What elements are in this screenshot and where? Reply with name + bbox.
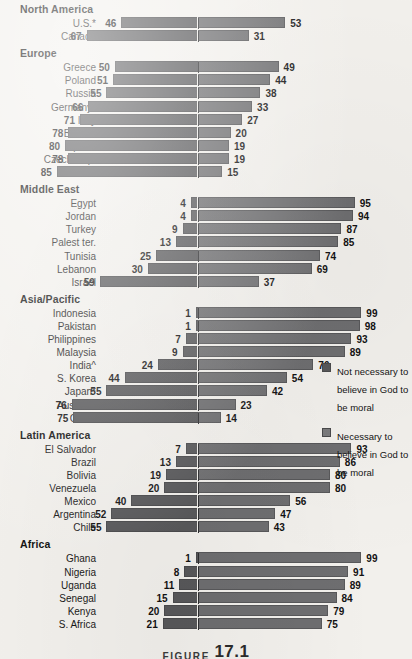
bar-segment-not-necessary bbox=[65, 140, 197, 151]
left-value: 78 bbox=[42, 127, 63, 140]
right-value: 19 bbox=[234, 153, 245, 166]
center-axis-line bbox=[198, 264, 199, 275]
bar-row: Canada6731 bbox=[0, 30, 300, 43]
bar-row: Israel5937 bbox=[0, 276, 300, 289]
bar-segment-not-necessary bbox=[106, 521, 197, 532]
bar-segment-not-necessary bbox=[72, 399, 198, 410]
country-label: Tunisia bbox=[0, 250, 96, 263]
bar-row: Palest ter.1385 bbox=[0, 236, 300, 249]
left-value: 55 bbox=[80, 521, 101, 534]
bar-row: Greece5049 bbox=[0, 61, 300, 74]
bar-row: El Salvador793 bbox=[0, 443, 300, 456]
center-axis-line bbox=[198, 457, 199, 468]
left-value: 59 bbox=[74, 276, 95, 289]
center-axis-line bbox=[198, 237, 199, 248]
bar-row: India^2470 bbox=[0, 359, 300, 372]
bar-row: Uganda1189 bbox=[0, 579, 300, 592]
bar-segment-necessary bbox=[198, 140, 229, 151]
bar-row: Malaysia989 bbox=[0, 346, 300, 359]
right-value: 23 bbox=[241, 399, 252, 412]
center-axis-line bbox=[198, 141, 199, 152]
bar-row: Indonesia199 bbox=[0, 307, 300, 320]
bar-row: Poland5144 bbox=[0, 74, 300, 87]
center-axis-line bbox=[198, 347, 199, 358]
group-header-africa: Africa bbox=[20, 538, 50, 550]
center-axis-line bbox=[198, 360, 199, 371]
country-label: Greece bbox=[0, 61, 96, 74]
left-value: 24 bbox=[132, 359, 153, 372]
bar-segment-necessary bbox=[198, 74, 271, 85]
bar-segment-necessary bbox=[198, 17, 286, 28]
bar-row: Egypt495 bbox=[0, 197, 300, 210]
right-value: 99 bbox=[366, 307, 377, 320]
bar-segment-necessary bbox=[198, 385, 268, 396]
right-value: 49 bbox=[284, 61, 295, 74]
diverging-bar-chart: North AmericaU.S.*4653Canada6731EuropeGr… bbox=[0, 0, 412, 636]
center-axis-line bbox=[198, 31, 199, 42]
left-value: 50 bbox=[89, 61, 110, 74]
left-value: 40 bbox=[105, 495, 126, 508]
country-label: Bolivia bbox=[0, 469, 96, 482]
bar-row: Britain*7820 bbox=[0, 127, 300, 140]
right-value: 53 bbox=[290, 17, 301, 30]
center-axis-line bbox=[198, 522, 199, 533]
bar-row: Pakistan198 bbox=[0, 320, 300, 333]
right-value: 94 bbox=[358, 210, 369, 223]
bar-segment-not-necessary bbox=[57, 166, 198, 177]
left-value: 7 bbox=[160, 333, 181, 346]
center-axis-line bbox=[198, 18, 199, 29]
right-value: 69 bbox=[317, 263, 328, 276]
bar-row: Ghana199 bbox=[0, 552, 300, 565]
left-value: 7 bbox=[160, 443, 181, 456]
left-value: 51 bbox=[87, 74, 108, 87]
country-label: El Salvador bbox=[0, 443, 96, 456]
chart-legend: Not necessary to believe in God to be mo… bbox=[322, 361, 412, 491]
right-value: 79 bbox=[333, 605, 344, 618]
center-axis-line bbox=[198, 580, 199, 591]
left-value: 80 bbox=[39, 140, 60, 153]
bar-row: Australia7623 bbox=[0, 399, 300, 412]
bar-row: Bolivia1980 bbox=[0, 469, 300, 482]
bar-segment-necessary bbox=[198, 166, 223, 177]
left-value: 85 bbox=[31, 166, 52, 179]
bar-segment-not-necessary bbox=[158, 359, 198, 370]
bar-row: Chile5543 bbox=[0, 521, 300, 534]
center-axis-line bbox=[198, 400, 199, 411]
country-label: Brazil bbox=[0, 456, 96, 469]
left-value: 1 bbox=[170, 320, 191, 333]
bar-segment-not-necessary bbox=[106, 385, 197, 396]
country-label: Nigeria bbox=[0, 566, 96, 579]
right-value: 54 bbox=[292, 372, 303, 385]
bar-row: Nigeria891 bbox=[0, 566, 300, 579]
left-value: 19 bbox=[140, 469, 161, 482]
right-value: 20 bbox=[236, 127, 247, 140]
bar-row: Russia5538 bbox=[0, 87, 300, 100]
bar-row: S. Korea4454 bbox=[0, 372, 300, 385]
bar-row: France*8515 bbox=[0, 166, 300, 179]
bar-segment-necessary bbox=[198, 333, 352, 344]
country-label: Ghana bbox=[0, 552, 96, 565]
center-axis-line bbox=[198, 386, 199, 397]
right-value: 75 bbox=[327, 618, 338, 631]
right-value: 91 bbox=[353, 566, 364, 579]
bar-segment-not-necessary bbox=[111, 508, 197, 519]
legend-item-necessary: Necessary to believe in God to be moral bbox=[322, 426, 412, 480]
legend-label: Necessary to believe in God to be moral bbox=[337, 431, 408, 478]
center-axis-line bbox=[198, 62, 199, 73]
right-value: 98 bbox=[365, 320, 376, 333]
legend-swatch-necessary bbox=[322, 428, 331, 437]
right-value: 95 bbox=[360, 197, 371, 210]
bar-segment-not-necessary bbox=[183, 346, 198, 357]
country-label: Turkey bbox=[0, 223, 96, 236]
bar-segment-necessary bbox=[198, 552, 362, 563]
bar-row: Japan*5542 bbox=[0, 385, 300, 398]
bar-segment-not-necessary bbox=[186, 333, 198, 344]
country-label: Indonesia bbox=[0, 307, 96, 320]
bar-segment-necessary bbox=[198, 101, 253, 112]
bar-segment-not-necessary bbox=[183, 223, 198, 234]
left-value: 13 bbox=[150, 456, 171, 469]
bar-row: Mexico4056 bbox=[0, 495, 300, 508]
country-label: Lebanon bbox=[0, 263, 96, 276]
center-axis-line bbox=[198, 444, 199, 455]
left-value: 1 bbox=[170, 307, 191, 320]
